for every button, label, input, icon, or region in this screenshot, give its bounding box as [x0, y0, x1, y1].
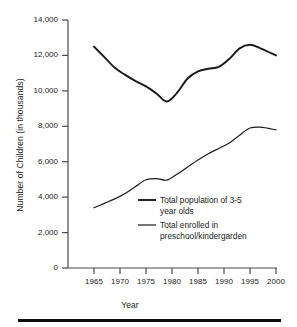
- y-tick-label-0: 0: [14, 263, 58, 272]
- series-line-total-population: [94, 45, 276, 102]
- chart-figure: 14,000 12,000 10,000 8,000 6,000 4,000 2…: [0, 0, 297, 327]
- legend-label-total-population: Total population of 3-5 year olds: [160, 195, 242, 216]
- y-tick-label-14000: 14,000: [14, 15, 58, 24]
- y-axis-ticks: [62, 20, 68, 268]
- x-tick-label-2000: 2000: [261, 277, 291, 286]
- y-axis-title: Number of Children (in thousands): [15, 45, 25, 245]
- x-axis-title: Year: [0, 300, 260, 310]
- x-axis-ticks: [94, 268, 276, 274]
- legend-label-total-enrolled: Total enrolled in preschool/kindergarden: [160, 220, 247, 241]
- bottom-divider-rule: [18, 319, 281, 322]
